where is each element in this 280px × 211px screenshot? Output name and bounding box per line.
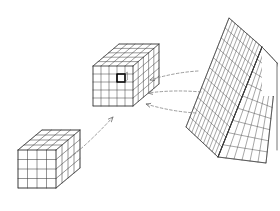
surface-left-vline (194, 107, 226, 137)
surface-left-vline (209, 68, 242, 97)
surface-left-uline (201, 31, 244, 140)
surface-left-vline (206, 77, 238, 107)
highlighted-voxel-cell[interactable] (117, 72, 127, 82)
small-voxel-cube[interactable] (18, 130, 80, 188)
surface-to-cube-middle (148, 91, 201, 93)
surface-left-vline (221, 38, 254, 67)
surface-left-vline (225, 28, 258, 57)
surface-left-uline (203, 34, 247, 144)
surface-left-outline (186, 18, 262, 157)
surface-right-uline (226, 50, 265, 158)
cube-top-depthline (117, 44, 143, 66)
surface-left-vline (198, 97, 230, 127)
surface-left-vline (202, 87, 234, 117)
surface-left-uline (206, 36, 250, 146)
folded-grid-surface[interactable] (186, 18, 277, 163)
arrow-group (70, 71, 201, 158)
surface-left-uline (198, 29, 241, 138)
diagram-canvas: Voxel cube to folded grid surface diagra… (0, 0, 280, 211)
surface-left-uline (209, 39, 253, 149)
surface-left-uline (192, 23, 235, 132)
surface-left-vline (213, 58, 246, 87)
surface-left-vline (190, 117, 222, 147)
cube-top-depthline (101, 44, 127, 66)
surface-left-uline (195, 26, 238, 135)
surface-to-cube-upper (150, 71, 198, 80)
surface-occlusion-mask (262, 47, 277, 96)
surface-left-vline (217, 48, 250, 77)
voxel-diagram-svg: Voxel cube to folded grid surface diagra… (0, 0, 280, 211)
cube-top-depthline (109, 44, 135, 66)
surface-fold-edge (218, 47, 262, 157)
main-voxel-cube[interactable] (93, 44, 159, 106)
highlighted-voxel-outline (117, 74, 125, 82)
surface-to-cube-lower (146, 104, 196, 113)
surface-right-vline (228, 133, 269, 141)
cube-silhouette (93, 44, 159, 106)
